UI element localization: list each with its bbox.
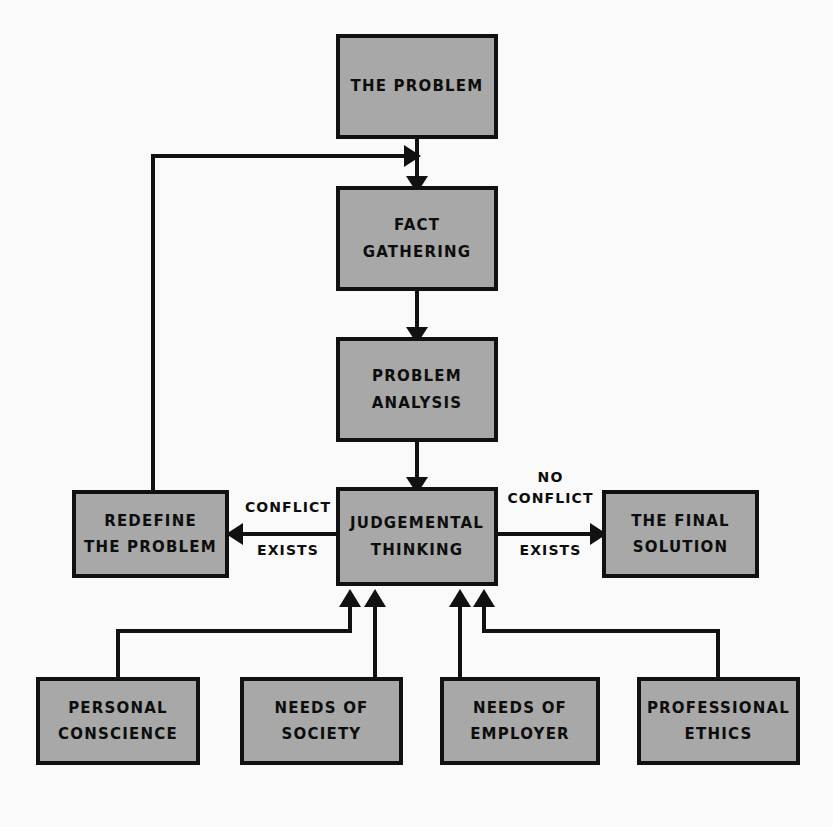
node-label-problem-analysis: PROBLEM ANALYSIS [372,363,463,416]
edge-ethics-to-judgement [484,600,718,677]
edge-conscience-to-judgement [118,600,350,677]
node-judgemental-thinking[interactable]: JUDGEMENTAL THINKING [336,487,498,586]
arrowhead-society [364,589,386,607]
node-label-the-final-solution: THE FINAL SOLUTION [631,508,730,561]
node-label-judgemental-thinking: JUDGEMENTAL THINKING [350,510,484,563]
arrowhead-conscience [339,589,361,607]
node-professional-ethics[interactable]: PROFESSIONAL ETHICS [637,677,800,765]
node-needs-of-employer[interactable]: NEEDS OF EMPLOYER [440,677,600,765]
node-label-fact-gathering: FACT GATHERING [340,212,494,265]
node-label-professional-ethics: PROFESSIONAL ETHICS [647,695,790,748]
node-personal-conscience[interactable]: PERSONAL CONSCIENCE [36,677,200,765]
edge-label-conflict: CONFLICT [243,497,333,518]
node-fact-gathering[interactable]: FACT GATHERING [336,186,498,291]
edge-label-conflict-exists: EXISTS [243,540,333,561]
arrowhead-ethics [473,589,495,607]
flowchart-canvas: THE PROBLEM FACT GATHERING PROBLEM ANALY… [0,0,833,827]
node-redefine-the-problem[interactable]: REDEFINE THE PROBLEM [72,490,229,578]
edge-label-no-conflict: NO CONFLICT [503,467,598,509]
node-problem-analysis[interactable]: PROBLEM ANALYSIS [336,337,498,442]
node-needs-of-society[interactable]: NEEDS OF SOCIETY [240,677,403,765]
edge-label-no-conflict-exists: EXISTS [503,540,598,561]
node-the-final-solution[interactable]: THE FINAL SOLUTION [602,490,759,578]
node-the-problem[interactable]: THE PROBLEM [336,34,498,139]
node-label-personal-conscience: PERSONAL CONSCIENCE [58,695,178,748]
arrowhead-employer [449,589,471,607]
node-label-needs-of-society: NEEDS OF SOCIETY [274,695,368,748]
node-label-the-problem: THE PROBLEM [351,73,484,99]
node-label-needs-of-employer: NEEDS OF EMPLOYER [470,695,570,748]
node-label-redefine-the-problem: REDEFINE THE PROBLEM [84,508,217,561]
